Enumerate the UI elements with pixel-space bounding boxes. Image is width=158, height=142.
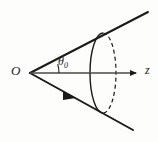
figure-canvas <box>0 0 158 142</box>
geometry-figure: O θ0 z <box>0 0 158 142</box>
cone-direction-arrowhead <box>63 91 76 100</box>
z-axis-label: z <box>145 64 150 76</box>
angle-subscript: 0 <box>64 61 68 70</box>
cone-lower-generator <box>30 73 133 130</box>
cone-upper-generator <box>30 12 148 73</box>
half-angle-label: θ0 <box>58 55 68 70</box>
origin-label: O <box>11 64 20 77</box>
